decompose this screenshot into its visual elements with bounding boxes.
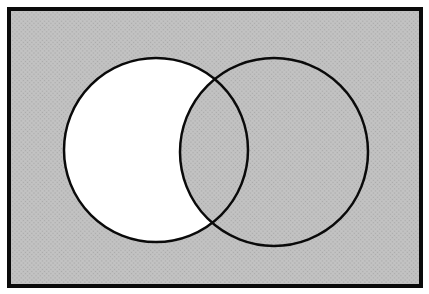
venn-diagram-page: [0, 0, 429, 294]
venn-diagram-figure: [0, 0, 429, 294]
